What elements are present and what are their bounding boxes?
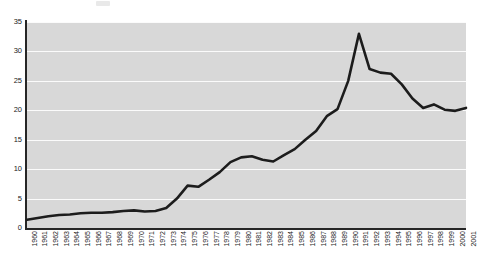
x-tick-label: 1982 — [266, 231, 273, 247]
x-tick-label: 1994 — [395, 231, 402, 247]
x-tick-label: 1964 — [73, 231, 80, 247]
y-tick-label: 5 — [0, 195, 22, 203]
x-tick-label: 1971 — [148, 231, 155, 247]
y-tick-label: 20 — [0, 106, 22, 114]
x-tick-label: 1966 — [95, 231, 102, 247]
data-line-path — [27, 34, 466, 220]
x-tick-label: 1970 — [138, 231, 145, 247]
x-tick-label: 1984 — [287, 231, 294, 247]
y-tick-label: 0 — [0, 224, 22, 232]
y-tick-label: 30 — [0, 47, 22, 55]
x-tick-label: 1961 — [41, 231, 48, 247]
x-tick-label: 1997 — [427, 231, 434, 247]
x-tick-label: 1987 — [320, 231, 327, 247]
x-tick-label: 1990 — [352, 231, 359, 247]
x-tick-label: 1991 — [362, 231, 369, 247]
x-tick-label: 2001 — [470, 231, 477, 247]
x-tick-label: 1975 — [191, 231, 198, 247]
x-axis-tick-labels: 1960196119621963196419651966196719681969… — [27, 231, 466, 273]
x-tick-label: 1963 — [63, 231, 70, 247]
x-tick-label: 1978 — [223, 231, 230, 247]
x-tick-label: 1969 — [127, 231, 134, 247]
x-tick-label: 1968 — [116, 231, 123, 247]
y-tick-label: 35 — [0, 18, 22, 26]
x-tick-label: 1998 — [437, 231, 444, 247]
x-tick-label: 1985 — [298, 231, 305, 247]
x-tick-label: 1983 — [277, 231, 284, 247]
x-tick-label: 1972 — [159, 231, 166, 247]
x-tick-label: 1974 — [180, 231, 187, 247]
x-tick-label: 1999 — [448, 231, 455, 247]
x-tick-label: 1992 — [373, 231, 380, 247]
x-tick-label: 1989 — [341, 231, 348, 247]
y-tick-label: 25 — [0, 77, 22, 85]
top-artifact — [0, 0, 476, 10]
x-tick-label: 1962 — [52, 231, 59, 247]
x-tick-label: 1967 — [105, 231, 112, 247]
x-tick-label: 2000 — [459, 231, 466, 247]
x-tick-label: 1960 — [31, 231, 38, 247]
x-tick-label: 1980 — [245, 231, 252, 247]
x-tick-label: 1977 — [213, 231, 220, 247]
x-tick-label: 1965 — [84, 231, 91, 247]
x-tick-label: 1986 — [309, 231, 316, 247]
artifact-smudge — [96, 1, 110, 6]
x-tick-label: 1981 — [255, 231, 262, 247]
x-tick-label: 1979 — [234, 231, 241, 247]
x-tick-label: 1976 — [202, 231, 209, 247]
y-tick-label: 15 — [0, 136, 22, 144]
plot-area — [27, 22, 466, 228]
y-tick-label: 10 — [0, 165, 22, 173]
data-series-svg — [27, 22, 466, 228]
x-tick-label: 1993 — [384, 231, 391, 247]
x-tick-label: 1996 — [416, 231, 423, 247]
x-tick-label: 1995 — [405, 231, 412, 247]
x-tick-label: 1988 — [330, 231, 337, 247]
x-tick-label: 1973 — [170, 231, 177, 247]
